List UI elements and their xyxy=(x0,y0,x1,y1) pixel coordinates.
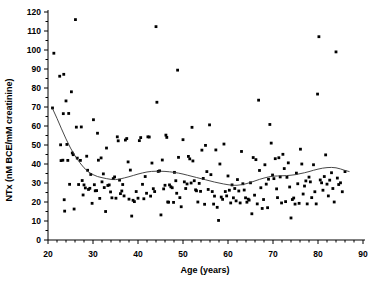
data-point xyxy=(183,180,186,183)
data-point xyxy=(63,198,66,201)
data-point xyxy=(52,52,55,55)
data-point xyxy=(161,159,164,162)
data-point xyxy=(100,157,103,160)
data-point xyxy=(267,178,270,181)
data-point xyxy=(175,192,178,195)
data-point xyxy=(85,155,88,158)
data-point xyxy=(290,217,293,220)
data-point xyxy=(144,175,147,178)
data-point xyxy=(108,184,111,187)
data-point xyxy=(327,195,330,198)
data-point xyxy=(312,163,315,166)
data-point xyxy=(203,203,206,206)
data-point xyxy=(250,212,253,215)
data-point xyxy=(155,25,158,28)
data-point xyxy=(316,93,319,96)
data-point xyxy=(65,100,68,103)
data-point xyxy=(113,176,116,179)
x-tick-label: 30 xyxy=(88,249,98,259)
data-point xyxy=(284,200,287,203)
data-point xyxy=(228,189,231,192)
data-point xyxy=(262,198,265,201)
data-point xyxy=(79,159,82,162)
data-point xyxy=(214,149,217,152)
data-point xyxy=(204,144,207,147)
data-point xyxy=(109,191,112,194)
data-point xyxy=(322,189,325,192)
data-point xyxy=(123,195,126,198)
data-point xyxy=(232,196,235,199)
y-tick-label: 90 xyxy=(32,64,42,74)
data-point xyxy=(318,35,321,38)
y-axis-title: NTx (nM BCE/mM creatinine) xyxy=(4,78,14,201)
data-point xyxy=(216,206,219,209)
data-point xyxy=(103,186,106,189)
data-point xyxy=(73,208,76,211)
data-point xyxy=(323,175,326,178)
data-point xyxy=(59,143,62,146)
data-point xyxy=(70,90,73,93)
data-point xyxy=(223,143,226,146)
data-point xyxy=(237,190,240,193)
data-point xyxy=(265,183,268,186)
data-point xyxy=(162,187,165,190)
data-point xyxy=(313,190,316,193)
x-tick-label: 80 xyxy=(313,249,323,259)
data-point xyxy=(164,184,167,187)
data-point xyxy=(276,196,279,199)
data-point xyxy=(256,203,259,206)
data-point xyxy=(275,187,278,190)
data-point xyxy=(151,162,154,165)
data-point xyxy=(270,142,273,145)
data-point xyxy=(62,73,65,76)
smoothed-trend-path xyxy=(53,109,350,186)
data-point xyxy=(309,180,312,183)
data-point xyxy=(111,196,114,199)
data-point xyxy=(61,159,64,162)
data-point xyxy=(98,197,101,200)
data-point xyxy=(219,163,222,166)
data-point xyxy=(63,210,66,213)
data-point xyxy=(244,196,247,199)
data-point xyxy=(292,197,295,200)
data-point xyxy=(211,190,214,193)
data-point xyxy=(310,196,313,199)
data-point xyxy=(199,190,202,193)
data-point xyxy=(324,153,327,156)
data-point xyxy=(160,214,163,217)
x-tick-label: 90 xyxy=(358,249,368,259)
data-point xyxy=(296,182,299,185)
data-point xyxy=(239,202,242,205)
data-point xyxy=(92,118,95,121)
data-point xyxy=(176,69,179,72)
data-point xyxy=(180,205,183,208)
data-point xyxy=(283,167,286,170)
data-point xyxy=(205,170,208,173)
data-point xyxy=(257,99,260,102)
data-point xyxy=(129,169,132,172)
data-point xyxy=(217,219,220,222)
x-tick-label: 40 xyxy=(133,249,143,259)
data-point xyxy=(331,187,334,190)
data-point xyxy=(280,202,283,205)
axes xyxy=(48,10,365,240)
data-point xyxy=(339,181,342,184)
data-point xyxy=(142,197,145,200)
y-tick-label: 120 xyxy=(27,7,41,17)
trend-line xyxy=(53,109,350,186)
data-point xyxy=(266,206,269,209)
data-point xyxy=(277,156,280,159)
data-point xyxy=(190,182,193,185)
x-axis-tick-labels: 2030405060708090 xyxy=(43,249,368,259)
data-point xyxy=(328,179,331,182)
y-tick-label: 110 xyxy=(27,26,41,36)
data-point xyxy=(125,137,128,140)
data-point xyxy=(302,193,305,196)
data-point xyxy=(201,149,204,152)
data-point xyxy=(335,51,338,54)
data-point xyxy=(77,183,80,186)
data-point xyxy=(127,161,130,164)
data-point xyxy=(188,157,191,160)
data-point xyxy=(145,192,148,195)
data-point xyxy=(288,186,291,189)
